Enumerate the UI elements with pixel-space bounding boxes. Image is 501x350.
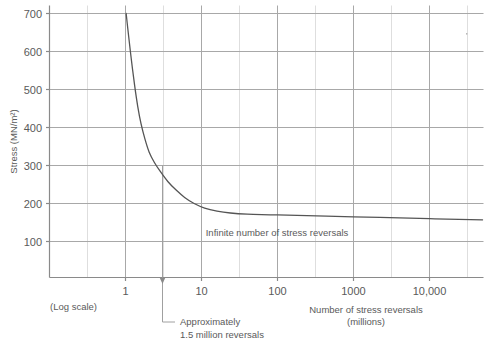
log-scale-note: (Log scale) (50, 301, 97, 312)
endurance-limit-label: Infinite number of stress reversals (206, 227, 349, 238)
marker-callout-line2: 1.5 million reversals (180, 329, 264, 340)
scan-speck (466, 33, 467, 35)
marker-line-1p5-million (160, 166, 175, 323)
y-tick-label: 300 (24, 160, 42, 172)
x-tick-labels: 1 10 100 1000 10,000 (122, 285, 446, 297)
y-tick-labels: 100 200 300 400 500 600 700 (24, 8, 42, 248)
x-axis-title-line1: Number of stress reversals (309, 304, 423, 315)
x-tick-label: 1 (122, 285, 128, 297)
y-tick-label: 600 (24, 46, 42, 58)
y-tick-label: 200 (24, 198, 42, 210)
marker-callout-line1: Approximately (180, 316, 240, 327)
chart-figure: 100 200 300 400 500 600 700 1 10 100 100… (0, 0, 501, 350)
y-tick-label: 700 (24, 8, 42, 20)
y-axis-title: Stress (MN/m²) (8, 109, 19, 173)
x-axis-title-line2: (millions) (347, 316, 385, 327)
sn-curve-chart: 100 200 300 400 500 600 700 1 10 100 100… (0, 0, 501, 350)
x-tick-label: 10 (195, 285, 207, 297)
x-tick-label: 1000 (341, 285, 365, 297)
x-tick-label: 10,000 (413, 285, 447, 297)
x-tick-label: 100 (268, 285, 286, 297)
y-tick-label: 100 (24, 236, 42, 248)
y-tick-label: 500 (24, 84, 42, 96)
horizontal-gridlines (50, 14, 484, 242)
y-tick-label: 400 (24, 122, 42, 134)
